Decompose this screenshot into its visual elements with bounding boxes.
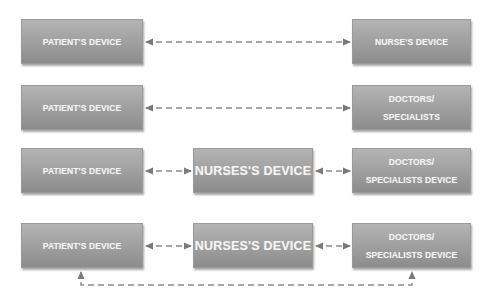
box-label: NURSES'S DEVICE: [195, 164, 311, 178]
box-label: PATIENT'S DEVICE: [43, 166, 121, 176]
box-label: NURSE'S DEVICE: [375, 37, 448, 47]
box-label: PATIENT'S DEVICE: [43, 241, 121, 251]
box-label: PATIENT'S DEVICE: [43, 37, 121, 47]
box-label-line2: SPECIALISTS DEVICE: [366, 171, 458, 189]
row4-nurses-device-box: NURSES'S DEVICE: [193, 223, 313, 268]
box-label-line1: DOCTORS/: [389, 153, 435, 171]
row4-doctors-specialists-device-box: DOCTORS/ SPECIALISTS DEVICE: [352, 223, 471, 268]
box-label: PATIENT'S DEVICE: [43, 103, 121, 113]
row4-patient-device-box: PATIENT'S DEVICE: [21, 223, 143, 268]
row3-doctors-specialists-device-box: DOCTORS/ SPECIALISTS DEVICE: [352, 148, 471, 193]
box-label-line2: SPECIALISTS DEVICE: [366, 246, 458, 264]
row1-nurse-device-box: NURSE'S DEVICE: [352, 19, 471, 64]
box-label: NURSES'S DEVICE: [195, 239, 311, 253]
row1-patient-device-box: PATIENT'S DEVICE: [21, 19, 143, 64]
box-label-line1: DOCTORS/: [389, 228, 435, 246]
row3-patient-device-box: PATIENT'S DEVICE: [21, 148, 143, 193]
connector-row4-patient-doctors-bottom: [81, 272, 412, 285]
row3-nurses-device-box: NURSES'S DEVICE: [193, 148, 313, 193]
row2-patient-device-box: PATIENT'S DEVICE: [21, 85, 143, 130]
box-label-line1: DOCTORS/: [389, 90, 435, 108]
row2-doctors-specialists-box: DOCTORS/ SPECIALISTS: [352, 85, 471, 130]
box-label-line2: SPECIALISTS: [383, 108, 440, 126]
